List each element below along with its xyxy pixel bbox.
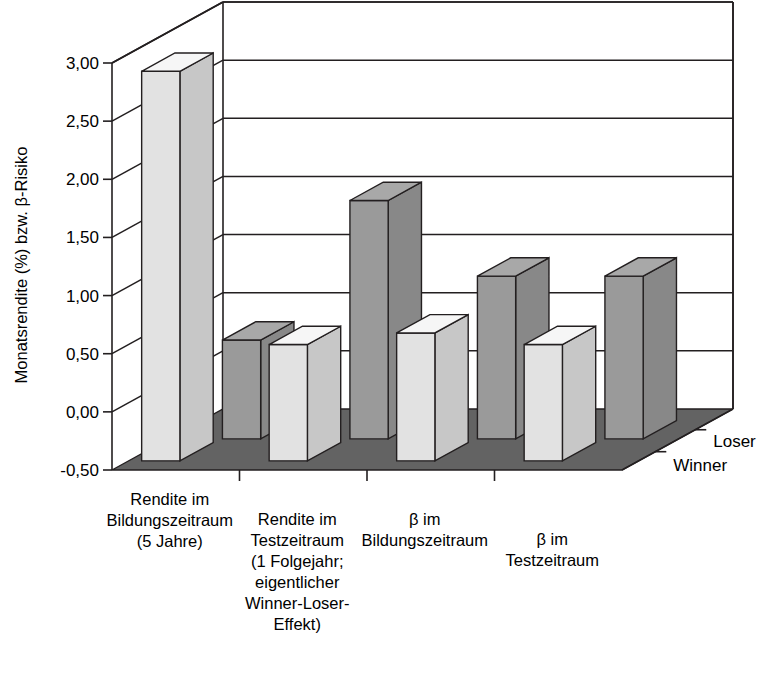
bar-chart-3d: 3,002,502,001,501,000,500,00-0,50 LoserW… <box>0 0 773 673</box>
category-label: Rendite im <box>130 490 209 508</box>
y-tick-label: 3,00 <box>66 54 99 73</box>
bar-winner-1 <box>269 326 341 461</box>
legend-label-winner: Winner <box>673 456 727 475</box>
category-label: Effekt) <box>274 615 321 633</box>
bar-winner-0 <box>142 53 214 461</box>
bar-loser-3 <box>605 258 677 439</box>
category-label: eigentlicher <box>255 573 340 591</box>
category-label: Rendite im <box>258 510 337 528</box>
category-label: (5 Jahre) <box>137 532 203 550</box>
category-label: β im <box>409 510 441 528</box>
y-tick-label: 0,00 <box>66 403 99 422</box>
y-tick-label: 1,50 <box>66 228 99 247</box>
category-label: Bildungszeitraum <box>361 531 488 549</box>
y-tick-label: -0,50 <box>60 461 99 480</box>
y-axis-title: Monatsrendite (%) bzw. β-Risiko <box>12 147 30 384</box>
y-tick-label: 0,50 <box>66 345 99 364</box>
y-tick-label: 2,00 <box>66 170 99 189</box>
y-tick-label: 1,00 <box>66 287 99 306</box>
bar-winner-3 <box>524 326 596 461</box>
category-label: Winner-Loser- <box>245 594 350 612</box>
category-label: β im <box>537 530 569 548</box>
y-axis-title: Monatsrendite (%) bzw. β-Risiko <box>12 147 30 384</box>
chart-container: 3,002,502,001,501,000,500,00-0,50 LoserW… <box>0 0 773 673</box>
category-label: (1 Folgejahr; <box>251 552 344 570</box>
y-tick-label: 2,50 <box>66 112 99 131</box>
bar-winner-2 <box>397 315 469 461</box>
category-label: Testzeitraum <box>505 551 599 569</box>
legend-label-loser: Loser <box>713 432 756 451</box>
category-label: Testzeitraum <box>250 531 344 549</box>
category-label: Bildungszeitraum <box>106 511 233 529</box>
